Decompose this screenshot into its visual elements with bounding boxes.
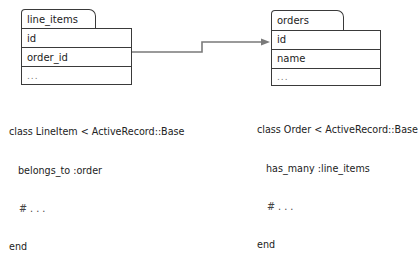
table-name: line_items <box>27 14 78 25</box>
field-row: ... <box>272 69 380 86</box>
table-orders: orders id name ... <box>271 10 381 87</box>
code-line: # . . . <box>9 203 184 216</box>
table-name: orders <box>277 15 309 26</box>
code-line-item-model: class LineItem < ActiveRecord::Base belo… <box>9 101 184 254</box>
field-id: id <box>277 34 286 45</box>
table-title-tab: orders <box>271 10 344 31</box>
code-line: end <box>257 239 418 252</box>
table-line-items: line_items id order_id ... <box>21 9 132 86</box>
code-line: class Order < ActiveRecord::Base <box>257 124 418 137</box>
field-more: ... <box>277 72 289 82</box>
code-line: # . . . <box>257 201 418 214</box>
field-order-id: order_id <box>27 52 68 63</box>
code-order-model: class Order < ActiveRecord::Base has_man… <box>257 99 418 254</box>
field-row: name <box>272 50 380 69</box>
field-name: name <box>277 53 305 64</box>
field-row: ... <box>22 67 131 84</box>
code-line: class LineItem < ActiveRecord::Base <box>9 126 184 139</box>
code-line: has_many :line_items <box>257 163 418 176</box>
code-line: end <box>9 241 184 254</box>
field-row: order_id <box>22 48 131 67</box>
field-id: id <box>27 33 36 44</box>
field-row: id <box>272 31 380 50</box>
field-row: id <box>22 29 131 48</box>
field-more: ... <box>27 71 39 81</box>
arrowhead-icon <box>261 39 270 46</box>
code-line: belongs_to :order <box>9 165 184 178</box>
table-title-tab: line_items <box>21 9 96 29</box>
